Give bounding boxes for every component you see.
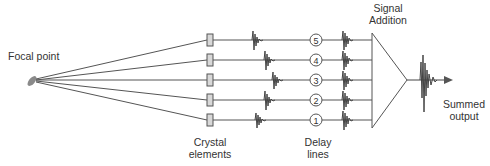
wavelet-icon [272, 72, 283, 89]
acoustic-rays [36, 40, 207, 120]
channel-lines [213, 40, 372, 120]
svg-text:3: 3 [313, 76, 318, 86]
crystal-elements-label-line2: elements [180, 148, 240, 160]
wavelet-icon [255, 113, 266, 128]
delay-lines-label-line2: lines [293, 148, 343, 160]
summed-output-label-line1: Summed [438, 98, 490, 110]
signal-addition-label-line1: Signal [358, 2, 418, 14]
delay-lines: 5 4 3 2 1 [310, 34, 322, 126]
crystal-elements [207, 34, 213, 126]
wavelet-icon [342, 31, 353, 50]
svg-text:5: 5 [313, 36, 318, 46]
wavelet-icon [342, 71, 353, 90]
summed-output-label: Summed output [438, 98, 490, 122]
summed-wavelet-icon [420, 55, 437, 112]
wavelet-icon [342, 51, 353, 70]
svg-text:1: 1 [313, 116, 318, 126]
wavelet-icon [252, 31, 263, 50]
svg-text:2: 2 [313, 96, 318, 106]
wavelet-icon [342, 111, 353, 130]
signal-addition-triangle [372, 33, 407, 128]
focal-point-label: Focal point [8, 50, 59, 62]
wavelet-icon [342, 91, 353, 110]
summed-output-label-line2: output [438, 110, 490, 122]
signal-addition-label: Signal Addition [358, 2, 418, 26]
wavelet-icon [264, 91, 275, 110]
wavelet-icon [264, 51, 275, 70]
signal-addition-label-line2: Addition [358, 14, 418, 26]
crystal-elements-label: Crystal elements [180, 136, 240, 160]
delay-lines-label: Delay lines [293, 136, 343, 160]
svg-text:4: 4 [313, 56, 318, 66]
crystal-elements-label-line1: Crystal [180, 136, 240, 148]
delay-lines-label-line1: Delay [293, 136, 343, 148]
aligned-wavelets [342, 31, 353, 130]
arrow-head-icon [444, 76, 453, 84]
